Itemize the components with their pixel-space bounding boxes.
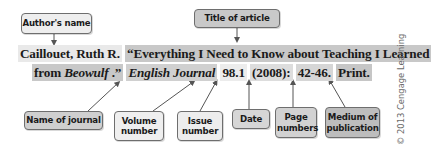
- label-date-text: Date: [240, 114, 262, 124]
- label-title-text: Title of article: [204, 13, 269, 23]
- citation-line-2: from Beowulf .” English Journal 98.1 (20…: [32, 65, 372, 81]
- label-author-name-text: Author's name: [23, 18, 91, 28]
- label-issue-text: Issue number: [182, 116, 218, 137]
- citation-title-part1: “Everything I Need to Know about Teachin…: [125, 45, 431, 62]
- title-italic-beowulf: Beowulf: [64, 65, 108, 80]
- label-medium-of-publication: Medium of publication: [325, 107, 380, 138]
- label-pages-text: Page numbers: [277, 112, 315, 133]
- citation-date: (2008):: [250, 64, 293, 81]
- label-title-of-article: Title of article: [194, 9, 280, 28]
- label-volume-number: Volume number: [114, 111, 164, 141]
- copyright-credit: © 2013 Cengage Learning: [396, 34, 406, 145]
- label-date: Date: [232, 109, 270, 129]
- citation-line-1: Caillouet, Ruth R. “Everything I Need to…: [18, 46, 431, 62]
- label-volume-text: Volume number: [121, 116, 157, 137]
- citation-pages: 42-46.: [296, 64, 333, 81]
- title-suffix: .”: [109, 65, 122, 80]
- citation-title-part2: from Beowulf .”: [32, 64, 123, 81]
- label-author-name: Author's name: [21, 13, 92, 34]
- citation-author: Caillouet, Ruth R.: [18, 45, 122, 62]
- label-issue-number: Issue number: [177, 111, 223, 141]
- label-name-of-journal: Name of journal: [24, 111, 103, 130]
- label-journal-text: Name of journal: [26, 115, 100, 125]
- citation-volume-issue: 98.1: [220, 64, 246, 81]
- title-prefix: from: [34, 65, 64, 80]
- label-medium-text: Medium of publication: [327, 112, 379, 133]
- citation-medium: Print.: [336, 64, 372, 81]
- label-page-numbers: Page numbers: [275, 107, 317, 138]
- citation-journal: English Journal: [126, 64, 217, 81]
